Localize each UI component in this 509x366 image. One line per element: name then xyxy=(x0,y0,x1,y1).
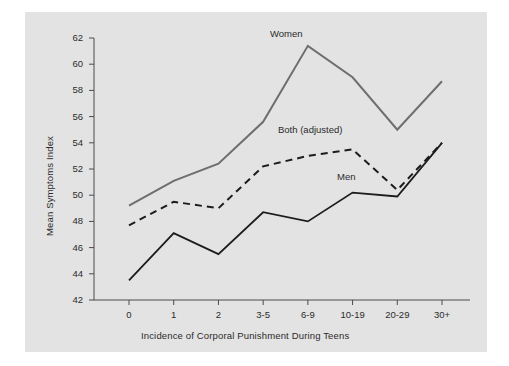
series-line-women xyxy=(129,46,442,206)
chart-figure: Mean Symptoms Index Incidence of Corpora… xyxy=(0,0,509,366)
chart-series xyxy=(129,46,442,280)
chart-plot-area xyxy=(0,0,509,366)
chart-axes xyxy=(89,38,470,305)
series-line-both-adjusted xyxy=(129,143,442,226)
series-line-men xyxy=(129,143,442,281)
